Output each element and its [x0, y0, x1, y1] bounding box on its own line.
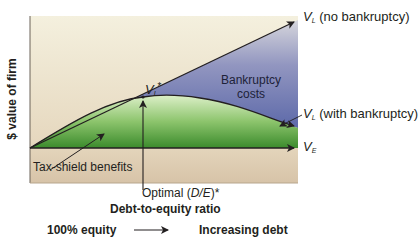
vl-symbol: V — [303, 106, 312, 121]
label-vl-no-bankruptcy: VL (no bankruptcy) — [303, 10, 410, 28]
y-axis-label: $ value of firm — [5, 49, 19, 149]
bankruptcy-line1: Bankruptcy — [218, 73, 284, 87]
label-bankruptcy-costs: Bankruptcy costs — [218, 73, 284, 101]
bankruptcy-line2: costs — [218, 87, 284, 101]
vl-star-asterisk: * — [158, 81, 162, 92]
x-axis-label: Debt-to-equity ratio — [110, 202, 221, 216]
vl-symbol: V — [303, 9, 312, 24]
ve-subscript: E — [312, 147, 317, 154]
ve-symbol: V — [303, 139, 312, 154]
optimal-suffix: )* — [211, 186, 220, 200]
label-vl-with-bankruptcy: VL (with bankruptcy) — [303, 107, 418, 125]
label-optimal-de: Optimal (D/E)* — [142, 186, 219, 200]
vl-no-bankruptcy-text: (no bankruptcy) — [316, 9, 410, 24]
vl-star-symbol: V — [145, 82, 154, 97]
x-left-end-label: 100% equity — [47, 223, 116, 237]
optimal-prefix: Optimal ( — [142, 186, 191, 200]
label-tax-shield: Tax-shield benefits — [33, 160, 132, 174]
x-right-end-label: Increasing debt — [199, 223, 288, 237]
optimal-de: D/E — [191, 186, 211, 200]
label-ve: VE — [303, 140, 316, 158]
label-vl-star: VL* — [145, 80, 161, 101]
vl-with-bankruptcy-text: (with bankruptcy) — [316, 106, 418, 121]
